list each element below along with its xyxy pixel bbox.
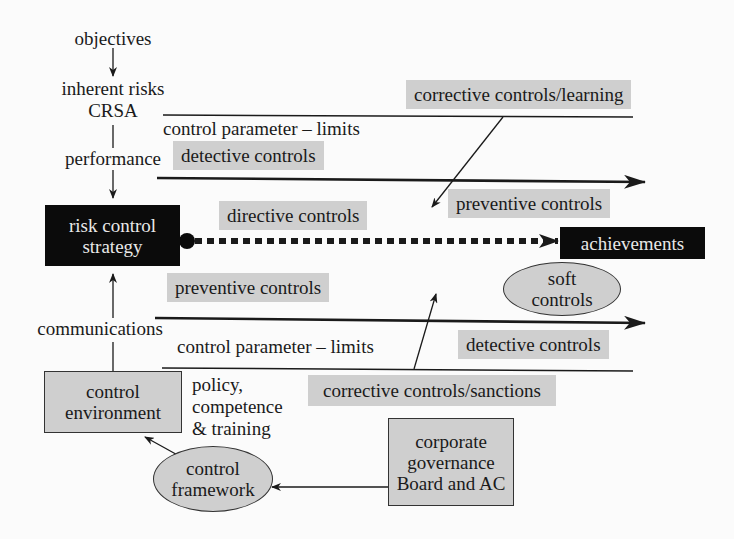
label-directive: directive controls (219, 201, 367, 230)
node-corporate-governance-line2: governance (407, 452, 495, 473)
label-policy-line1: policy, (192, 374, 283, 396)
upper-limit-line (163, 115, 633, 117)
node-corporate-governance[interactable]: corporate governance Board and AC (388, 418, 514, 506)
node-soft-controls-line2: controls (531, 289, 592, 310)
node-control-framework[interactable]: control framework (153, 446, 273, 512)
node-achievements[interactable]: achievements (560, 227, 705, 259)
lower-main-arrow (155, 318, 645, 323)
node-control-environment[interactable]: control environment (44, 371, 182, 433)
arrow-corrective-sanctions (414, 294, 436, 369)
node-risk-control-strategy-line2: strategy (82, 236, 142, 257)
label-upper-preventive: preventive controls (448, 189, 610, 218)
node-control-environment-line1: control (86, 381, 140, 402)
lower-limit-line (162, 368, 633, 371)
label-lower-limits: control parameter – limits (177, 336, 374, 357)
label-communications: communications (30, 318, 170, 339)
label-performance: performance (50, 148, 176, 169)
node-soft-controls[interactable]: soft controls (503, 262, 621, 316)
node-control-framework-line2: framework (171, 479, 254, 500)
label-inherent-risks: inherent risks (48, 78, 178, 99)
node-soft-controls-line1: soft (548, 268, 577, 289)
label-lower-preventive: preventive controls (167, 273, 329, 302)
node-risk-control-strategy-line1: risk control (69, 215, 156, 236)
label-crsa: CRSA (78, 100, 148, 121)
label-corrective-learning: corrective controls/learning (406, 80, 631, 109)
node-risk-control-strategy[interactable]: risk control strategy (45, 205, 180, 266)
label-policy-line3: & training (192, 418, 283, 440)
node-corporate-governance-line1: corporate (415, 431, 487, 452)
label-policy-line2: competence (192, 396, 283, 418)
label-policy: policy, competence & training (192, 374, 283, 440)
strategy-origin-dot (179, 233, 195, 249)
node-control-framework-line1: control (186, 458, 240, 479)
label-corrective-sanctions: corrective controls/sanctions (308, 375, 556, 406)
label-lower-detective: detective controls (458, 330, 609, 359)
label-objectives: objectives (68, 28, 158, 49)
risk-control-diagram: objectives inherent risks CRSA performan… (0, 0, 734, 539)
node-corporate-governance-line3: Board and AC (397, 473, 506, 494)
upper-main-arrow (157, 178, 645, 182)
label-upper-limits: control parameter – limits (163, 118, 360, 139)
node-control-environment-line2: environment (65, 402, 161, 423)
label-upper-detective: detective controls (173, 141, 324, 170)
